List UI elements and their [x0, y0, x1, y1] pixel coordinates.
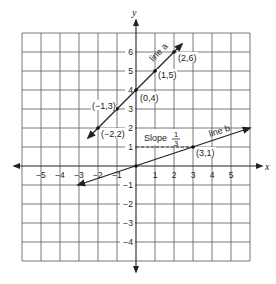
svg-text:6: 6: [128, 47, 133, 57]
x-tick-labels: −5 −4 −3 −2 −1 1 2 3 4 5: [36, 170, 233, 180]
svg-text:−3: −3: [123, 218, 133, 228]
point-label-0-4: (0,4): [140, 93, 159, 103]
svg-text:Slope: Slope: [144, 133, 167, 143]
svg-text:−3: −3: [74, 170, 84, 180]
svg-text:3: 3: [128, 104, 133, 114]
svg-text:−1: −1: [123, 180, 133, 190]
svg-text:1: 1: [174, 130, 178, 139]
coordinate-plane: x y −5 −4 −3 −2 −1 1 2 3 4 5 6 5 4 3 2 1…: [0, 0, 276, 284]
slope-annotation: Slope 1 3: [142, 129, 186, 148]
point-label-neg2-2: (−2,2): [101, 129, 125, 139]
svg-text:−4: −4: [123, 237, 133, 247]
svg-text:4: 4: [210, 170, 215, 180]
svg-text:3: 3: [191, 170, 196, 180]
svg-text:2: 2: [128, 123, 133, 133]
svg-text:1: 1: [153, 170, 158, 180]
svg-text:5: 5: [229, 170, 234, 180]
svg-text:−5: −5: [36, 170, 46, 180]
svg-text:−2: −2: [123, 199, 133, 209]
x-axis-label: x: [264, 161, 270, 172]
svg-text:3: 3: [174, 139, 178, 148]
y-axis-label: y: [131, 7, 137, 18]
svg-text:−4: −4: [55, 170, 65, 180]
point-label-2-6: (2,6): [178, 53, 197, 63]
point-label-neg1-3: (−1,3): [92, 101, 116, 111]
point-label-1-5: (1,5): [158, 70, 177, 80]
svg-text:5: 5: [128, 66, 133, 76]
point-label-3-1: (3,1): [196, 148, 215, 158]
svg-text:2: 2: [172, 170, 177, 180]
line-b-label: line b: [208, 123, 232, 139]
svg-text:1: 1: [128, 142, 133, 152]
